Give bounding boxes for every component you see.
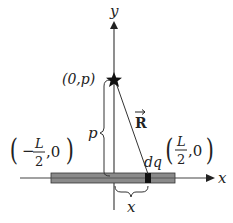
p-label: p [88, 124, 98, 142]
charged-rod-diagram: y x dq R (0,p) p x ( − L 2 ,0 ) [0, 0, 233, 223]
svg-text:(: ( [165, 132, 173, 167]
svg-text:L: L [176, 134, 186, 149]
left-endpoint-label: ( − L 2 ,0 ) [10, 132, 74, 169]
x-distance-label: x [127, 198, 136, 216]
svg-text:,0: ,0 [188, 142, 202, 160]
svg-text:R: R [135, 115, 147, 131]
y-axis-label: y [109, 2, 119, 20]
svg-text:,0: ,0 [46, 143, 60, 161]
svg-text:−: − [22, 142, 35, 160]
y-axis-arrow-icon [110, 21, 118, 29]
x-axis-arrow-icon [206, 174, 215, 182]
x-axis-label: x [218, 169, 227, 187]
x-brace: x [115, 186, 148, 216]
svg-text:): ) [206, 132, 214, 167]
right-endpoint-label: ( L 2 ,0 ) [165, 132, 214, 167]
p-brace: p [88, 80, 110, 176]
svg-text:2: 2 [177, 152, 185, 167]
svg-text:2: 2 [35, 154, 43, 169]
charged-rod [51, 173, 175, 183]
vector-arrow-icon [135, 110, 145, 115]
r-vector-label: R [135, 110, 147, 132]
point-label: (0,p) [62, 71, 95, 87]
svg-text:(: ( [10, 132, 18, 167]
svg-text:L: L [34, 136, 44, 151]
svg-text:): ) [66, 132, 74, 167]
charge-element [145, 173, 151, 183]
charge-element-label: dq [144, 154, 162, 170]
